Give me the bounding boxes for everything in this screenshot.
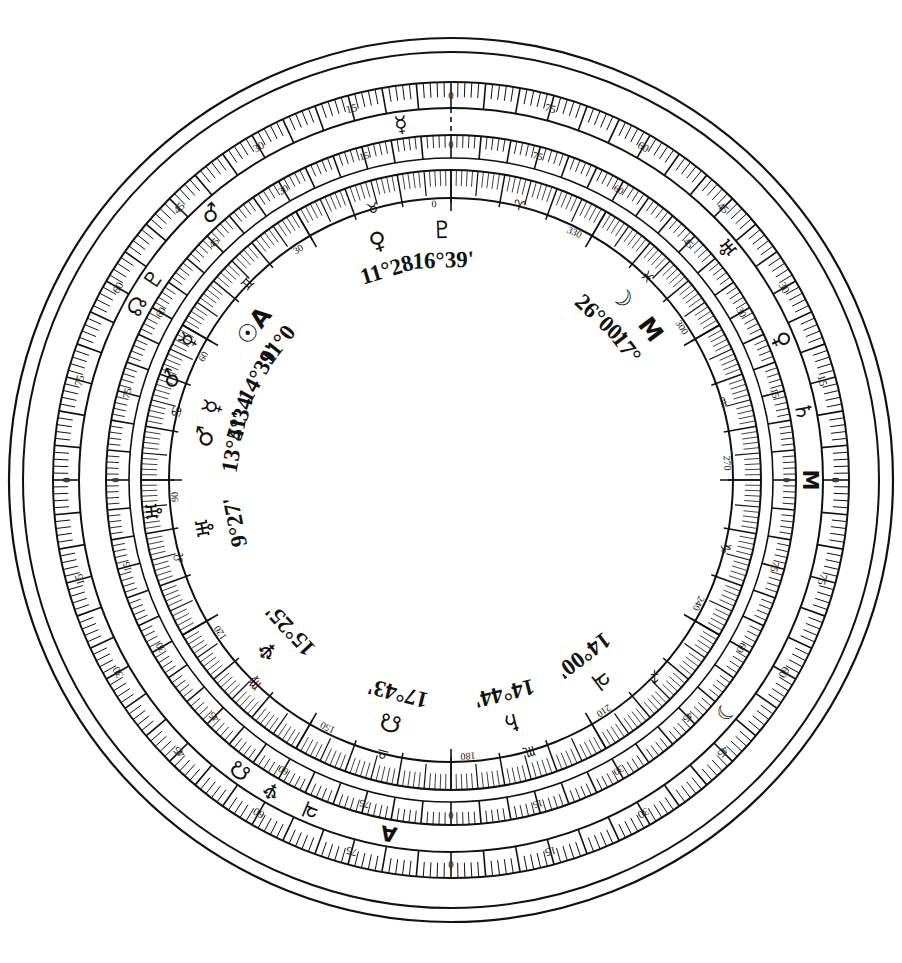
ring4-scale-label: 30 <box>635 805 651 821</box>
ring4-minor-tick <box>665 150 673 163</box>
ring4-minor-tick <box>361 853 364 868</box>
ring2-minor-tick <box>330 195 336 210</box>
ring2-minor-tick <box>745 464 761 465</box>
ring2-minor-tick <box>731 384 746 389</box>
ring4-minor-tick <box>607 830 613 844</box>
ring4-minor-tick <box>768 257 781 265</box>
ring4-minor-tick <box>62 397 77 400</box>
ring2-minor-tick <box>547 758 552 773</box>
ring4-minor-tick <box>707 184 717 195</box>
ring2-minor-tick <box>340 191 346 206</box>
ring3-minor-tick <box>106 462 119 463</box>
ring3-minor-tick <box>133 345 145 350</box>
ring3-minor-tick <box>121 577 133 581</box>
ring3-minor-tick <box>720 675 730 682</box>
ring2-minor-tick <box>172 609 186 616</box>
ring3-minor-tick <box>289 175 295 186</box>
ring3-minor-tick <box>730 661 741 668</box>
ring4-minor-tick <box>829 418 844 420</box>
ring4-minor-tick <box>72 357 86 362</box>
ring3-minor-tick <box>782 444 795 445</box>
ring2-minor-tick <box>153 395 168 399</box>
ring2-major-tick <box>252 243 273 268</box>
ring3-major-tick <box>127 362 149 370</box>
ring3-major-tick <box>111 420 134 424</box>
ring4-scale-label: 0 <box>830 477 842 483</box>
ring4-minor-tick <box>712 760 722 771</box>
ring3-minor-tick <box>586 165 591 177</box>
ring3-minor-tick <box>258 194 265 204</box>
position-venus: ♀11°28 <box>348 220 416 290</box>
ring3-major-tick <box>768 420 791 424</box>
ring3-minor-tick <box>570 158 575 170</box>
ring2-minor-tick <box>487 172 489 188</box>
ring4-minor-tick <box>833 500 848 501</box>
ring4-scale-label: 0 <box>448 89 454 101</box>
ring4-minor-tick <box>234 801 242 814</box>
ring3-minor-tick <box>216 228 225 237</box>
ring3-minor-tick <box>263 759 270 770</box>
ring4-minor-tick <box>409 861 411 876</box>
ring3-minor-tick <box>492 138 494 151</box>
ring4-minor-tick <box>806 623 820 629</box>
ring2-minor-tick <box>440 170 441 186</box>
ring3-minor-tick <box>744 318 755 324</box>
ring2-minor-tick <box>413 172 415 188</box>
ring4-minor-tick <box>817 592 831 596</box>
ring4-minor-tick <box>361 92 364 107</box>
ring4-minor-tick <box>389 87 391 102</box>
ring2-minor-tick <box>166 359 181 365</box>
ring4-minor-tick <box>302 111 308 125</box>
zodiac-sign-icon-libra: ♎ <box>375 745 391 764</box>
position-pluto-degrees: 16°39' <box>412 247 474 274</box>
ring2-minor-tick <box>571 749 578 764</box>
ring2-minor-tick <box>561 753 567 768</box>
ring2-major-tick <box>214 658 239 679</box>
ring4-minor-tick <box>537 853 540 868</box>
ring3-minor-tick <box>554 796 558 808</box>
ring4-minor-tick <box>660 801 668 814</box>
ring3-minor-tick <box>385 141 387 153</box>
ring3-minor-tick <box>765 588 777 592</box>
ring2-minor-tick <box>556 754 562 769</box>
ring4-minor-tick <box>803 630 817 636</box>
ring4-major-tick <box>516 846 521 872</box>
ring2-major-tick <box>711 374 742 385</box>
ring2-minor-tick <box>310 742 317 756</box>
ring2-minor-tick <box>381 178 385 194</box>
marker-pluto-outer: ♇ <box>137 264 169 294</box>
chart-dial-container: 0153045607501530456075015304560750153045… <box>0 0 902 963</box>
ring4-minor-tick <box>625 125 632 138</box>
ring2-minor-tick <box>143 448 159 450</box>
ring4-minor-tick <box>58 540 73 542</box>
ring3-minor-tick <box>602 173 608 184</box>
ring3-scale-label: 75 <box>358 797 371 810</box>
ring2-minor-tick <box>725 585 740 591</box>
ring3-minor-tick <box>486 137 487 150</box>
ring4-minor-tick <box>808 617 822 622</box>
ring3-minor-tick <box>243 745 251 755</box>
position-saturn-degrees: 14°44' <box>471 674 537 713</box>
ring3-minor-tick <box>713 268 723 276</box>
ring2-minor-tick <box>149 546 165 550</box>
ring4-minor-tick <box>654 142 662 155</box>
ring3-minor-tick <box>112 543 124 545</box>
ring4-minor-tick <box>563 846 567 860</box>
ring2-minor-tick <box>507 176 510 192</box>
ring2-minor-tick <box>145 432 161 435</box>
ring4-minor-tick <box>217 158 226 170</box>
ring3-minor-tick <box>651 204 659 214</box>
marker-mars-inner: ♂ <box>156 365 186 392</box>
ring3-minor-tick <box>107 503 120 504</box>
ring3-major-tick <box>636 197 649 216</box>
ring4-major-tick <box>59 545 85 550</box>
ring2-mid-tick <box>424 171 426 196</box>
ring4-minor-tick <box>792 299 805 306</box>
ring3-minor-tick <box>115 555 127 558</box>
ring3-minor-tick <box>327 158 332 170</box>
ring2-minor-tick <box>736 405 752 409</box>
ring4-major-tick <box>664 154 679 175</box>
ring4-minor-tick <box>757 240 769 249</box>
ring4-minor-tick <box>829 540 844 542</box>
ring4-minor-tick <box>270 821 277 834</box>
